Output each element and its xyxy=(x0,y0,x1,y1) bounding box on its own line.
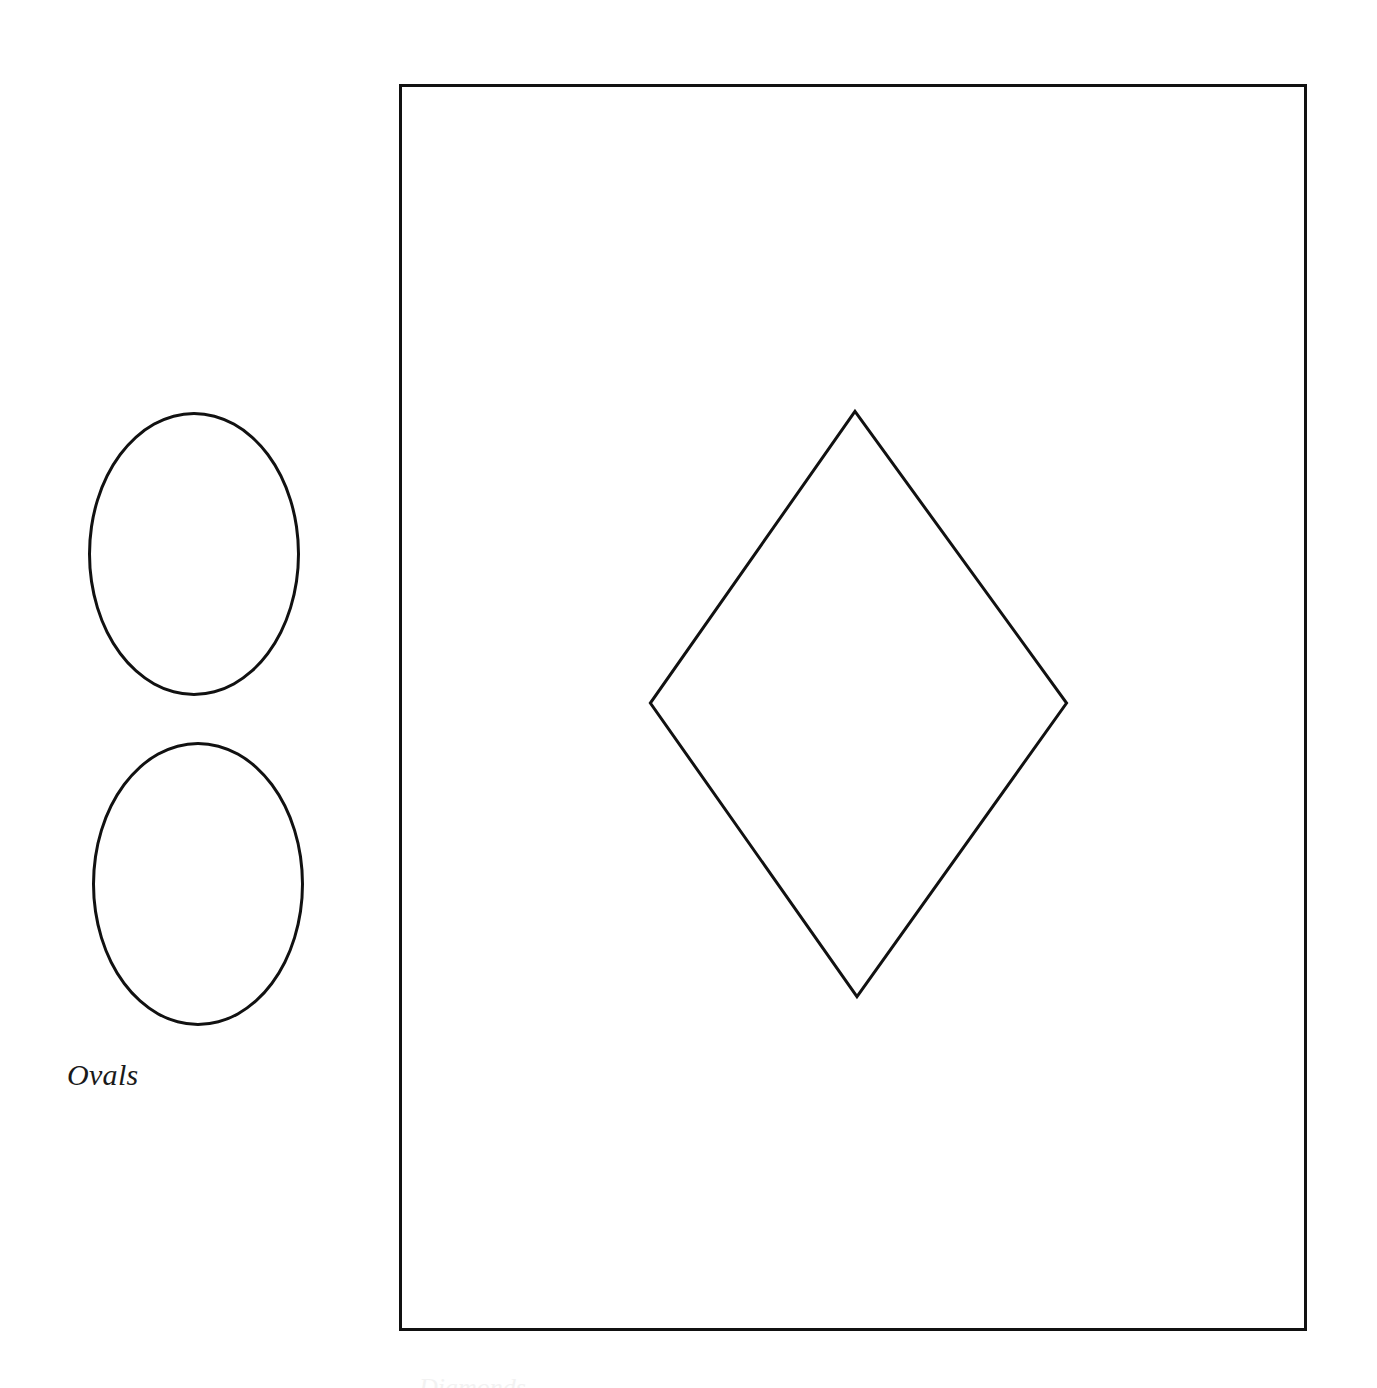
bottom-caption-label: Diamonds xyxy=(419,1374,526,1388)
framed-plate xyxy=(399,84,1307,1331)
ovals-group: Ovals xyxy=(0,0,380,1120)
figure-canvas: Ovals Diamonds xyxy=(0,0,1377,1388)
diamond-shape xyxy=(650,411,1066,996)
oval-lower-shape xyxy=(92,742,304,1026)
ovals-caption-label: Ovals xyxy=(67,1058,139,1092)
oval-upper-shape xyxy=(88,412,300,696)
plate-drawing-surface xyxy=(402,87,1304,1328)
